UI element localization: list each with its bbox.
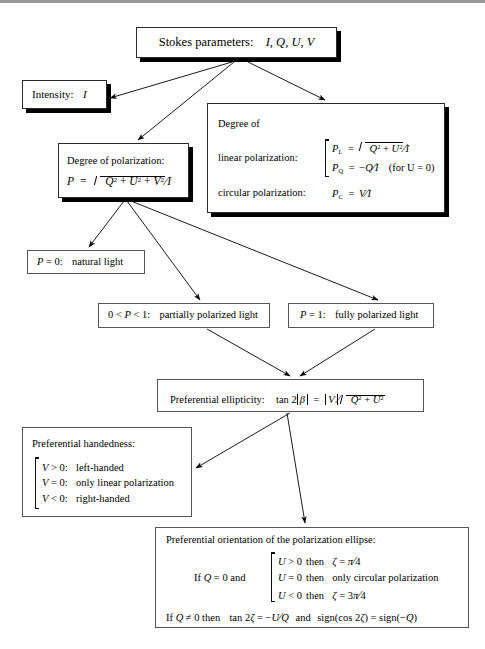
handedness-cases-group: V > 0: left-handed V = 0: only linear po… (32, 457, 191, 509)
linear-case-row-2: PQ = −Q⁄I (for U = 0) (332, 158, 435, 177)
orientation-case-label: If Q = 0 and (166, 572, 268, 584)
edge-ellipticity-to-handedness (196, 413, 290, 468)
edge-partially-to-ellipticity (207, 329, 290, 376)
orientation-result-2: only circular polarization (332, 572, 438, 583)
dop-title: Degree of polarization: (67, 155, 188, 167)
natural-light-result: natural light (72, 256, 123, 267)
handedness-row-1: V > 0: left-handed (42, 460, 174, 475)
handedness-result-2: only linear polarization (76, 477, 174, 488)
node-intensity[interactable]: Intensity: I (22, 80, 107, 109)
node-fully-polarized-light[interactable]: P = 1: fully polarized light (288, 303, 434, 328)
orientation-cases-group: U > 0then ζ = π⁄4 U = 0then only circula… (268, 552, 438, 605)
node-degree-of-polarization[interactable]: Degree of polarization: P = Q2 + U2 + V2… (58, 143, 189, 198)
diagram-canvas: Stokes parameters: I, Q, U, V Intensity:… (0, 0, 485, 649)
partially-polarized-text: 0 < P < 1: partially polarized light (108, 309, 258, 321)
brace-icon (268, 552, 275, 602)
handedness-row-2: V = 0: only linear polarization (42, 475, 174, 490)
edge-dop-to-natural-light (89, 201, 124, 247)
intensity-symbol: I (83, 88, 87, 100)
orientation-row-3: U < 0then ζ = 3π⁄4 (278, 586, 438, 605)
circular-polarization-label: circular polarization: (218, 187, 322, 199)
degree-panel-title: Degree of (218, 118, 444, 130)
partially-polarized-result: partially polarized light (159, 309, 258, 320)
fully-polarized-result: fully polarized light (335, 309, 418, 320)
orientation-title: Preferential orientation of the polariza… (166, 534, 468, 546)
handedness-result-3: right-handed (76, 493, 130, 504)
node-preferential-handedness[interactable]: Preferential handedness: V > 0: left-han… (22, 427, 192, 517)
orientation-final-line: If Q ≠ 0 then tan 2ζ = −U⁄Q and sign(cos… (166, 610, 468, 625)
edge-ellipticity-to-orientation (287, 413, 305, 523)
linear-case-row-1: PL = Q2 + U2⁄I (332, 139, 435, 158)
orientation-row-1: U > 0then ζ = π⁄4 (278, 552, 438, 571)
node-preferential-ellipticity[interactable]: Preferential ellipticity: tan 2β = V⁄Q2 … (157, 379, 424, 412)
fully-polarized-text: P = 1: fully polarized light (300, 309, 418, 321)
handedness-result-1: left-handed (76, 462, 124, 473)
edge-dop-to-fully-polarized (131, 201, 378, 300)
orientation-row-2: U = 0then only circular polarization (278, 570, 438, 585)
ellipticity-label: Preferential ellipticity: (170, 394, 265, 405)
brace-icon (322, 139, 329, 177)
intensity-label: Intensity: (32, 88, 74, 100)
edge-stokes-to-degree-panel (248, 62, 325, 100)
node-stokes-parameters[interactable]: Stokes parameters: I, Q, U, V (136, 27, 337, 58)
node-partially-polarized-light[interactable]: 0 < P < 1: partially polarized light (98, 303, 270, 328)
linear-cases-group: PL = Q2 + U2⁄I PQ = −Q⁄I (for U = 0) (322, 139, 435, 177)
linear-polarization-label: linear polarization: (218, 152, 322, 164)
natural-light-text: P = 0: natural light (37, 256, 123, 268)
linear-case-note: (for U = 0) (389, 162, 435, 173)
node-preferential-orientation[interactable]: Preferential orientation of the polariza… (155, 527, 469, 628)
stokes-label: Stokes parameters: (159, 35, 254, 49)
brace-icon (32, 457, 39, 509)
handedness-title: Preferential handedness: (32, 438, 191, 450)
stokes-symbols: I, Q, U, V (266, 35, 315, 49)
circular-formula: PC = V⁄I (322, 186, 371, 201)
node-natural-light[interactable]: P = 0: natural light (27, 250, 145, 274)
handedness-row-3: V < 0: right-handed (42, 491, 174, 506)
ellipticity-line: Preferential ellipticity: tan 2β = V⁄Q2 … (170, 392, 385, 407)
edge-stokes-to-intensity (110, 62, 232, 98)
dop-formula: P = Q2 + U2 + V2⁄I (67, 174, 188, 189)
node-degree-panel[interactable]: Degree of linear polarization: PL = Q2 +… (207, 103, 445, 213)
edge-fully-to-ellipticity (300, 329, 375, 376)
